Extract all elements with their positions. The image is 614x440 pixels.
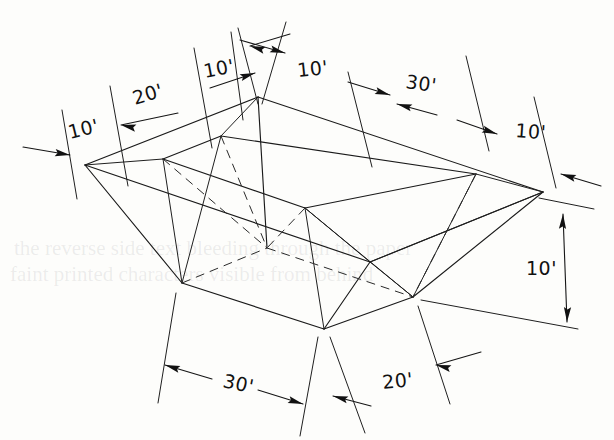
top-inner-rim — [163, 136, 476, 208]
hidden-construction-lines — [163, 136, 476, 297]
dim-label-top-right-outer: 10' — [515, 119, 547, 143]
drawing-sheet: the reverse side text bleeding through t… — [0, 0, 614, 440]
rim-corner-connectors — [85, 97, 543, 262]
dim-label-apex-right: 10' — [296, 56, 329, 81]
isometric-excavation-drawing: 10' 20' 10' 10' 30' 10' 10' 30' 20' — [0, 0, 614, 440]
inner-slope-edges — [163, 136, 543, 329]
slope-wall-edges — [85, 97, 543, 329]
extension-lines-apex — [238, 22, 286, 104]
bottom-floor — [182, 248, 413, 329]
dim-label-bottom-right-span: 20' — [381, 368, 414, 393]
dim-label-height-right: 10' — [526, 257, 557, 279]
extension-lines-bottom — [158, 293, 450, 436]
top-outer-rim — [85, 97, 543, 262]
dim-label-top-right-span: 30' — [404, 70, 438, 96]
dim-10ft-top-right-outer — [560, 171, 601, 186]
dim-label-bottom-left-span: 30' — [221, 369, 256, 397]
dim-label-top-left-inner: 10' — [202, 54, 237, 81]
dim-30ft-top-right — [396, 101, 498, 138]
dim-apex-arrows — [240, 34, 290, 56]
dim-label-top-left-span: 20' — [130, 79, 166, 109]
dim-label-top-left-outer: 10' — [66, 114, 101, 143]
dim-10ft-height-right — [559, 214, 571, 322]
dim-10ft-top-left-outer — [23, 147, 71, 159]
